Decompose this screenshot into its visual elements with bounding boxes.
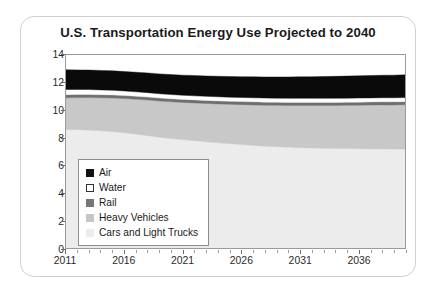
legend-swatch-icon	[86, 184, 94, 192]
legend-item: Water	[86, 180, 200, 195]
x-tick-mark-minor	[147, 250, 148, 253]
x-tick-label: 2021	[158, 255, 208, 266]
y-tick-label: 2	[24, 216, 64, 227]
legend-item: Air	[86, 165, 200, 180]
chart-legend: AirWaterRailHeavy VehiclesCars and Light…	[78, 159, 209, 246]
legend-item: Rail	[86, 195, 200, 210]
x-tick-mark-minor	[136, 250, 137, 253]
legend-label: Cars and Light Trucks	[99, 227, 198, 238]
x-tick-label: 2031	[275, 255, 325, 266]
x-tick-mark-minor	[324, 250, 325, 253]
x-tick-mark-minor	[230, 250, 231, 253]
x-tick-mark-minor	[382, 250, 383, 253]
x-tick-mark-major	[241, 250, 242, 254]
x-tick-mark-minor	[371, 250, 372, 253]
legend-label: Heavy Vehicles	[99, 212, 169, 223]
x-tick-mark-major	[359, 250, 360, 254]
x-tick-mark-minor	[347, 250, 348, 253]
legend-swatch-icon	[86, 199, 94, 207]
x-tick-label: 2011	[40, 255, 90, 266]
x-tick-mark-minor	[265, 250, 266, 253]
y-tick-label: 0	[24, 244, 64, 255]
x-tick-mark-minor	[312, 250, 313, 253]
x-tick-mark-minor	[194, 250, 195, 253]
y-tick-label: 8	[24, 132, 64, 143]
legend-label: Water	[99, 182, 126, 193]
legend-swatch-icon	[86, 169, 94, 177]
y-tick-label: 12	[24, 76, 64, 87]
x-tick-mark-minor	[159, 250, 160, 253]
x-tick-mark-minor	[77, 250, 78, 253]
x-tick-label: 2026	[216, 255, 266, 266]
x-tick-mark-minor	[89, 250, 90, 253]
y-tick-label: 10	[24, 104, 64, 115]
x-tick-mark-major	[300, 250, 301, 254]
x-tick-mark-minor	[171, 250, 172, 253]
x-tick-mark-minor	[218, 250, 219, 253]
x-tick-mark-major	[124, 250, 125, 254]
x-tick-mark-major	[183, 250, 184, 254]
x-tick-mark-major	[65, 250, 66, 254]
plot-wrapper: Millions of Barrels per Day Oil Equivale…	[65, 54, 406, 249]
legend-swatch-icon	[86, 229, 94, 237]
x-tick-mark-minor	[406, 250, 407, 253]
chart-title: U.S. Transportation Energy Use Projected…	[21, 25, 415, 40]
x-tick-mark-minor	[100, 250, 101, 253]
x-tick-mark-minor	[288, 250, 289, 253]
legend-label: Air	[99, 167, 111, 178]
x-tick-mark-minor	[112, 250, 113, 253]
y-tick-label: 6	[24, 160, 64, 171]
x-tick-mark-minor	[277, 250, 278, 253]
x-tick-mark-minor	[253, 250, 254, 253]
y-tick-label: 14	[24, 49, 64, 60]
x-tick-mark-minor	[206, 250, 207, 253]
legend-swatch-icon	[86, 214, 94, 222]
x-tick-mark-minor	[335, 250, 336, 253]
x-tick-label: 2036	[334, 255, 384, 266]
legend-item: Heavy Vehicles	[86, 210, 200, 225]
x-tick-mark-minor	[394, 250, 395, 253]
legend-label: Rail	[99, 197, 117, 208]
y-tick-label: 4	[24, 188, 64, 199]
chart-card: U.S. Transportation Energy Use Projected…	[20, 16, 416, 277]
x-tick-label: 2016	[99, 255, 149, 266]
legend-item: Cars and Light Trucks	[86, 225, 200, 240]
